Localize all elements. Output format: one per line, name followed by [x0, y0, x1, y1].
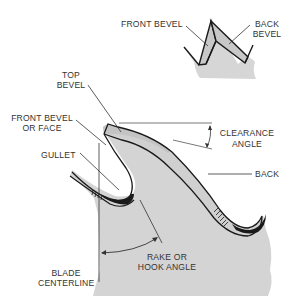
label-front-bevel: FRONT BEVEL [121, 19, 183, 30]
label-blade-centerline-2: CENTERLINE [38, 278, 94, 289]
label-back: BACK [255, 169, 279, 180]
label-clearance-angle-2: ANGLE [218, 139, 276, 150]
front-bevel-leader [186, 26, 208, 46]
label-top-bevel-2: BEVEL [54, 80, 88, 91]
label-rake-angle-2: HOOK ANGLE [136, 262, 198, 273]
saw-tooth-diagram: FRONT BEVEL BACK BEVEL TOP BEVEL FRONT B… [0, 0, 292, 308]
front-face-leader [76, 120, 106, 145]
label-blade-centerline-1: BLADE [38, 268, 94, 279]
label-clearance-angle-1: CLEARANCE [218, 128, 276, 139]
top-bevel-leader [88, 85, 121, 132]
label-rake-angle-1: RAKE OR [136, 252, 198, 263]
label-back-bevel-2: BEVEL [250, 29, 284, 40]
label-front-bevel-face-2: OR FACE [10, 123, 74, 134]
back-bevel-leader [229, 25, 250, 44]
inset-tooth-top-view [184, 20, 256, 79]
label-gullet: GULLET [41, 150, 76, 161]
label-top-bevel-1: TOP [54, 70, 88, 81]
label-front-bevel-face-1: FRONT BEVEL [10, 113, 74, 124]
label-back-bevel-1: BACK [250, 19, 284, 30]
